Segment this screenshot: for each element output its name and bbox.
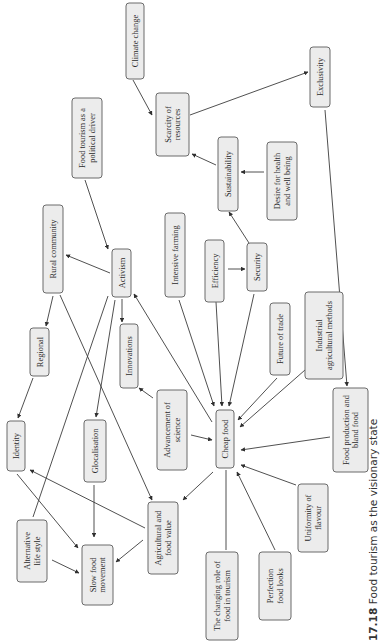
node-label: Alternativelife style [23, 532, 42, 570]
node-intensive: Intensive farming [165, 213, 185, 297]
edge-arrow [133, 80, 152, 115]
edge-arrow [240, 370, 305, 427]
node-sustainability: Sustainability [218, 137, 238, 211]
node-label: Identity [12, 432, 21, 459]
node-agrivalue: Agricultural andfood value [148, 502, 178, 574]
node-political: Food tourism as apolitical driver [72, 98, 102, 178]
edge-arrow [18, 378, 33, 418]
caption-text: Food tourism as the visionary state [367, 419, 379, 604]
node-label: The changing role offood in tourism [213, 561, 232, 631]
edge-arrow [183, 472, 213, 500]
node-science: Advancement ofscience [157, 390, 187, 470]
node-bland: Food production andbland food [333, 388, 368, 472]
node-label: Sustainability [224, 150, 233, 197]
node-cheap: Cheap food [216, 410, 234, 468]
node-glocal: Glocalisation [84, 420, 106, 482]
node-label: Food tourism as apolitical driver [78, 108, 97, 168]
edge-arrow [229, 294, 254, 406]
node-scarcity: Scarcity ofresources [156, 93, 189, 156]
node-label: Climate change [131, 15, 140, 68]
node-rural: Rural community [43, 205, 63, 293]
node-climate: Climate change [126, 3, 144, 79]
edge-arrow [96, 300, 115, 417]
node-label: Perfectionfood looks [266, 568, 285, 604]
caption-number: 17.18 [367, 604, 379, 641]
edge-arrow [237, 472, 275, 550]
node-efficiency: Efficiency [205, 240, 224, 302]
node-changing: The changing role offood in tourism [206, 552, 238, 640]
edge-arrow [139, 388, 153, 398]
node-uniformity: Uniformity offlavour [298, 484, 328, 552]
edge-arrow [190, 72, 308, 115]
node-identity: Identity [7, 421, 25, 471]
nodes-layer: Climate changeScarcity ofresourcesExclus… [7, 3, 368, 640]
node-label: Activism [118, 257, 127, 288]
edge-arrow [192, 154, 216, 165]
node-innovations: Innovations [120, 324, 138, 388]
node-altlife: Alternativelife style [17, 520, 47, 582]
node-label: Security [253, 252, 262, 281]
edge-arrow [66, 255, 110, 273]
figure-caption: 17.18 Food tourism as the visionary stat… [367, 419, 379, 641]
node-label: Scarcity ofresources [164, 106, 183, 143]
edge-arrow [238, 378, 277, 420]
edge-arrow [191, 435, 212, 440]
node-label: Regional [36, 336, 45, 367]
node-label: Cheap food [221, 419, 230, 459]
edge-arrow [241, 465, 296, 485]
node-label: Innovations [125, 336, 134, 376]
node-label: Rural community [49, 219, 58, 279]
edge-arrow [46, 296, 53, 326]
edge-arrow [216, 302, 222, 406]
node-label: Slow foodmovement [89, 557, 108, 593]
node-regional: Regional [30, 328, 49, 376]
edge-arrow [229, 212, 249, 243]
node-trade: Future of trade [270, 303, 290, 375]
food-tourism-diagram: Climate changeScarcity ofresourcesExclus… [0, 0, 385, 641]
node-industrial: Industrialagricultural methods [305, 292, 343, 379]
node-label: Efficiency [211, 253, 220, 289]
edge-arrow [116, 540, 143, 562]
node-slowfood: Slow foodmovement [82, 545, 113, 605]
edge-arrow [52, 560, 79, 573]
node-label: Glocalisation [91, 428, 100, 473]
node-perfection: Perfectionfood looks [259, 552, 291, 620]
edge-arrow [85, 180, 108, 249]
node-activism: Activism [112, 249, 131, 297]
node-exclusivity: Exclusivity [310, 47, 330, 107]
node-security: Security [247, 243, 267, 291]
node-label: Intensive farming [171, 225, 180, 285]
edge-arrow [241, 437, 330, 450]
node-label: Exclusivity [316, 57, 325, 96]
node-label: Future of trade [276, 314, 285, 364]
node-health: Desire for healthand well being [267, 142, 297, 220]
node-label: Desire for healthand well being [273, 152, 292, 209]
